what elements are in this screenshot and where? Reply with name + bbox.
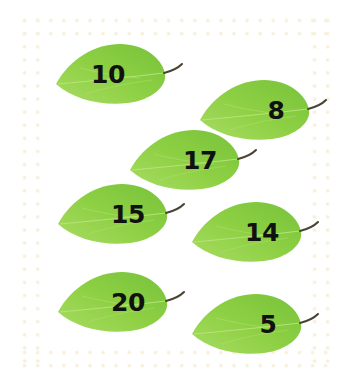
leaf-number-7: 5 (188, 288, 324, 360)
border-dots-top (18, 14, 334, 40)
leaf-number-5: 14 (188, 196, 318, 268)
worksheet-canvas: 10 8 (0, 0, 349, 387)
leaf-number-6: 20 (54, 266, 184, 338)
leaf-card-5[interactable]: 14 (188, 196, 318, 268)
leaf-number-4: 15 (54, 178, 184, 250)
leaf-card-7[interactable]: 5 (188, 288, 318, 360)
leaf-card-1[interactable]: 10 (52, 38, 182, 110)
leaf-number-1: 10 (52, 38, 164, 110)
border-dots-left (18, 14, 44, 372)
leaf-card-4[interactable]: 15 (54, 178, 184, 250)
leaf-card-6[interactable]: 20 (54, 266, 184, 338)
